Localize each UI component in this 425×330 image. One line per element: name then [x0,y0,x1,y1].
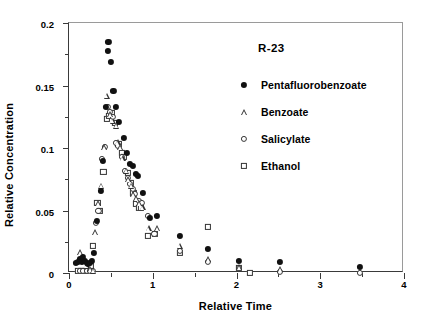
legend-item-salicylate[interactable]: Salicylate [236,128,406,150]
chart-figure: Relative Concentration Relative Time 00.… [0,0,425,330]
x-tick-label: 4 [401,279,406,290]
marker-filled-circle [147,215,153,221]
marker-filled-circle [89,257,95,263]
legend-label: Salicylate [261,133,310,145]
marker-filled-circle [113,104,119,110]
legend-swatch-open-square [236,159,252,173]
marker-filled-circle [121,135,127,141]
marker-filled-circle [154,212,160,218]
marker-filled-circle [135,172,141,178]
marker-filled-circle [98,187,104,193]
y-tick-label: 0.2 [41,19,54,30]
marker-filled-circle [176,232,182,238]
x-tick-label: 3 [318,279,323,290]
legend-swatch-open-circle [236,132,252,146]
legend-title: R-23 [258,42,406,54]
marker-filled-circle [140,190,146,196]
legend-item-ethanol[interactable]: Ethanol [236,155,406,177]
legend-label: Pentafluorobenzoate [261,79,367,91]
legend-entries: PentafluorobenzoateBenzoateSalicylateEth… [236,74,406,177]
marker-filled-circle [277,259,283,265]
x-tick-label: 2 [234,279,239,290]
marker-filled-circle [110,87,116,93]
marker-open-triangle [241,109,247,115]
y-tick-label: 0 [49,269,54,280]
x-axis-title: Relative Time [68,300,403,312]
marker-filled-circle [91,250,97,256]
marker-filled-circle [357,264,363,270]
legend-swatch-open-triangle [236,105,252,119]
marker-filled-circle [108,59,114,65]
y-tick-label: 0.05 [36,206,55,217]
marker-filled-circle [99,157,105,163]
legend: R-23 PentafluorobenzoateBenzoateSalicyla… [236,42,406,182]
y-tick-label: 0.15 [36,81,55,92]
marker-open-circle [241,136,247,142]
legend-item-benzoate[interactable]: Benzoate [236,101,406,123]
marker-open-square [241,163,247,169]
marker-filled-circle [124,150,130,156]
x-tick-minor [195,273,196,277]
marker-filled-circle [116,119,122,125]
x-tick-minor [111,273,112,277]
y-axis-title: Relative Concentration [0,0,18,330]
marker-filled-circle [130,162,136,168]
y-tick-label: 0.1 [41,144,54,155]
marker-filled-circle [94,217,100,223]
legend-swatch-filled-circle [236,78,252,92]
legend-item-pentafluorobenzoate[interactable]: Pentafluorobenzoate [236,74,406,96]
x-tick-label: 1 [150,279,155,290]
marker-filled-circle [241,82,247,88]
marker-filled-circle [236,257,242,263]
legend-label: Benzoate [261,106,308,118]
x-tick-label: 0 [66,279,71,290]
legend-label: Ethanol [261,160,300,172]
marker-filled-circle [104,47,110,53]
marker-filled-circle [205,246,211,252]
marker-filled-circle [103,104,109,110]
marker-filled-circle [105,39,111,45]
